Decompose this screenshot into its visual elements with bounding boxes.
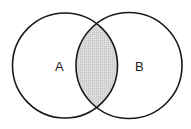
set-b-label: B — [135, 59, 144, 74]
venn-diagram: A B — [0, 0, 191, 129]
set-a-label: A — [55, 59, 64, 74]
